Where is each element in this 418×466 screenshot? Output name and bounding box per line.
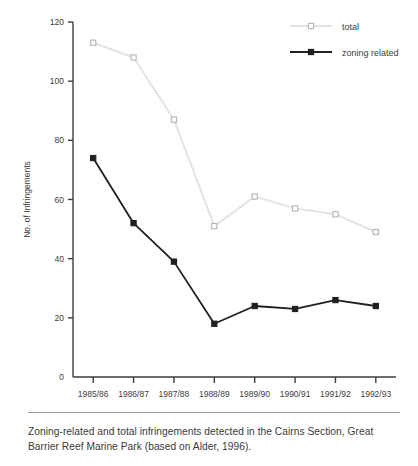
legend-item-zoning-related[interactable]: zoning related <box>290 48 399 58</box>
x-axis-tick-label: 1988/89 <box>199 389 230 399</box>
y-axis-tick-label: 0 <box>59 372 64 382</box>
figure-caption: Zoning-related and total infringements d… <box>28 425 406 454</box>
x-axis-tick-label: 1987/88 <box>159 389 190 399</box>
x-axis-tick-label: 1991/92 <box>320 389 351 399</box>
y-axis-tick-label: 100 <box>50 76 64 86</box>
chart-area: 0204060801001201985/861986/871987/881988… <box>0 0 418 412</box>
legend-marker <box>308 23 313 28</box>
data-point-marker <box>212 224 217 229</box>
data-point-marker <box>171 259 176 264</box>
data-point-marker <box>252 303 257 308</box>
legend-label: total <box>342 22 359 32</box>
data-point-marker <box>333 297 338 302</box>
y-axis-tick-label: 60 <box>55 195 65 205</box>
data-point-marker <box>292 206 297 211</box>
y-axis-title: No. of Infringements <box>22 161 32 238</box>
legend-marker <box>308 49 313 54</box>
data-point-marker <box>131 55 136 60</box>
line-chart: 0204060801001201985/861986/871987/881988… <box>0 0 418 412</box>
data-point-marker <box>292 306 297 311</box>
data-point-marker <box>373 303 378 308</box>
y-axis-tick-label: 120 <box>50 17 64 27</box>
figure-caption-block: Zoning-related and total infringements d… <box>0 412 418 466</box>
legend-label: zoning related <box>342 48 399 58</box>
data-point-marker <box>91 155 96 160</box>
x-axis-tick-label: 1989/90 <box>239 389 270 399</box>
x-axis-tick-label: 1986/87 <box>118 389 149 399</box>
series-total <box>91 40 379 235</box>
series-zoning-related <box>91 155 379 326</box>
data-point-marker <box>171 117 176 122</box>
x-axis-tick-label: 1990/91 <box>280 389 311 399</box>
caption-divider <box>28 412 400 413</box>
series-line <box>93 43 376 232</box>
data-point-marker <box>131 221 136 226</box>
x-axis-tick-label: 1985/86 <box>78 389 109 399</box>
y-axis-tick-label: 40 <box>55 254 65 264</box>
legend-item-total[interactable]: total <box>290 22 359 32</box>
data-point-marker <box>333 212 338 217</box>
figure-container: 0204060801001201985/861986/871987/881988… <box>0 0 418 466</box>
data-point-marker <box>212 321 217 326</box>
x-axis-tick-label: 1992/93 <box>360 389 391 399</box>
data-point-marker <box>252 194 257 199</box>
y-axis-tick-label: 20 <box>55 313 65 323</box>
data-point-marker <box>91 40 96 45</box>
data-point-marker <box>373 229 378 234</box>
y-axis-tick-label: 80 <box>55 135 65 145</box>
